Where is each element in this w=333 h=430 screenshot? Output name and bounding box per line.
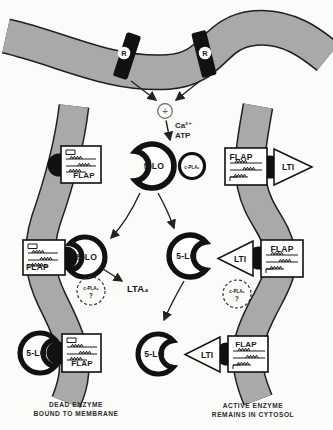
- lti-triangle-bottom-right: LTI: [185, 337, 220, 372]
- five-lo-label-5: 5-LO: [144, 349, 164, 359]
- lti-triangle-top-right: LTI: [274, 149, 312, 185]
- pathway-diagram: R R + Ca²⁺ ATP LTI LTI: [0, 0, 333, 430]
- flap-label-bottom-right: FLAP: [235, 340, 257, 349]
- plasma-membrane-top: [6, 28, 328, 73]
- flap-label-mid-right: FLAP: [270, 244, 293, 254]
- cpla2-circle: c-PLA₂: [180, 154, 205, 179]
- caption-right-line1: ACTIVE ENZYME: [223, 402, 284, 409]
- flap-label-top-left: FLAP: [73, 171, 95, 180]
- lta4-label: LTA₄: [127, 283, 149, 294]
- five-lo-label-2: 5-LO: [77, 252, 97, 262]
- cpla2-dashed-left-label: c-PLA₂: [83, 286, 98, 291]
- flap-label-bottom-left: FLAP: [71, 359, 93, 368]
- five-lo-label-1: 5-LO: [144, 161, 164, 171]
- arrow-stimulus-to-5lo: [166, 121, 170, 141]
- caption-right: ACTIVE ENZYME REMAINS IN CYTOSOL: [212, 402, 294, 418]
- flap-label-mid-left: FLAP: [26, 262, 49, 272]
- lti-label-mid-right: LTI: [234, 254, 246, 264]
- lti-label-bottom-right: LTI: [201, 350, 213, 360]
- lti-triangle-mid-right: LTI: [218, 241, 253, 276]
- stimulus-plus-label: +: [162, 105, 168, 117]
- arrow-to-lta4: [103, 269, 122, 281]
- pathway-canvas: R R + Ca²⁺ ATP LTI LTI: [0, 0, 333, 430]
- cpla2-label: c-PLA₂: [184, 165, 199, 170]
- atp-label: ATP: [175, 131, 191, 140]
- arrow-5lo-to-inhibited: [158, 193, 174, 228]
- lti-label-top-right: LTI: [282, 162, 294, 172]
- cpla2-dashed-right-question: ?: [235, 295, 239, 302]
- receptor-right-label: R: [202, 49, 208, 58]
- five-lo-inhibited: 5-LO: [169, 235, 206, 277]
- five-lo-active-cytosol: 5-LO: [138, 334, 173, 374]
- cpla2-dashed-left-question: ?: [89, 292, 93, 299]
- five-lo-cytosolic: 5-LO: [136, 144, 174, 188]
- receptor-left-label: R: [121, 49, 127, 58]
- five-lo-label-3: 5-LO: [176, 251, 196, 261]
- five-lo-label-4: 5-LO: [26, 348, 46, 358]
- cpla2-dashed-right: c-PLA₂ ?: [223, 280, 251, 308]
- caption-left-line2: BOUND TO MEMBRANE: [33, 410, 118, 417]
- flap-label-top-right: FLAP: [229, 152, 252, 162]
- calcium-label: Ca²⁺: [175, 121, 192, 130]
- caption-left-line1: DEAD ENZYME: [49, 401, 103, 408]
- caption-left: DEAD ENZYME BOUND TO MEMBRANE: [33, 401, 118, 417]
- arrow-5lo-to-membrane: [111, 193, 140, 238]
- cpla2-dashed-left: c-PLA₂ ?: [77, 277, 105, 305]
- cpla2-dashed-right-label: c-PLA₂: [229, 289, 244, 294]
- arrow-inhibited-to-cytosol: [164, 281, 184, 320]
- caption-right-line2: REMAINS IN CYTOSOL: [212, 411, 294, 418]
